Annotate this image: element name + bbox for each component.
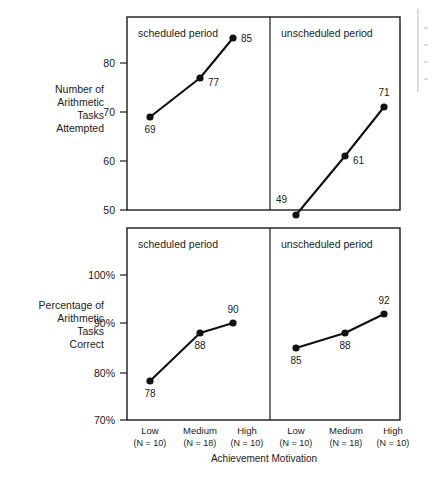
bottom-left-value-high: 90 xyxy=(227,304,239,315)
bottom-left-value-low: 78 xyxy=(144,388,156,399)
x-category-label-1: Low xyxy=(141,425,159,436)
bottom-right-value-high: 92 xyxy=(378,295,390,306)
top-right-datapoint-medium xyxy=(341,152,348,159)
x-category-label-5: Medium xyxy=(329,425,363,436)
bottom-right-datapoint-medium xyxy=(341,329,348,336)
bottom-left-panel-label: scheduled period xyxy=(138,238,218,250)
top-right-series: 49 61 71 xyxy=(276,87,390,219)
top-ylabel-line-1: Number of xyxy=(55,83,104,95)
bottom-ytick-label-70: 70% xyxy=(94,414,115,426)
x-axis-category-labels: Low (N = 10) Medium (N = 18) High (N = 1… xyxy=(134,425,410,448)
top-left-series-line xyxy=(150,38,233,117)
bottom-ytick-label-100: 100% xyxy=(88,269,115,281)
top-ytick-label-70: 70 xyxy=(103,106,115,118)
x-category-label-3: High xyxy=(237,425,257,436)
top-right-value-low: 49 xyxy=(276,194,288,205)
two-panel-line-chart: 80 70 60 50 Number of Arithmetic Tasks A… xyxy=(0,0,432,483)
top-ylabel-line-2: Arithmetic xyxy=(57,96,104,108)
x-category-label-4: Low xyxy=(287,425,305,436)
bottom-left-value-medium: 88 xyxy=(194,340,206,351)
top-left-value-medium: 77 xyxy=(208,77,220,88)
x-category-label-6: High xyxy=(383,425,403,436)
top-right-datapoint-high xyxy=(380,103,387,110)
top-ylabel-line-4: Attempted xyxy=(56,122,104,134)
top-left-datapoint-low xyxy=(146,113,153,120)
x-category-n-6: (N = 10) xyxy=(377,438,410,448)
top-left-datapoint-medium xyxy=(196,74,203,81)
bottom-left-datapoint-low xyxy=(146,377,153,384)
bottom-chart-y-axis-title: Percentage of Arithmetic Tasks Correct xyxy=(39,299,104,350)
top-right-panel-label: unscheduled period xyxy=(281,27,373,39)
bottom-right-value-low: 85 xyxy=(290,355,302,366)
x-category-n-5: (N = 18) xyxy=(330,438,363,448)
bottom-ylabel-line-4: Correct xyxy=(70,338,105,350)
top-left-value-high: 85 xyxy=(241,33,253,44)
bottom-ylabel-line-3: Tasks xyxy=(77,325,104,337)
bottom-right-datapoint-low xyxy=(292,344,299,351)
top-right-datapoint-low xyxy=(292,211,299,218)
bottom-chart-frame xyxy=(127,228,400,420)
x-category-n-2: (N = 18) xyxy=(184,438,217,448)
x-category-n-3: (N = 10) xyxy=(231,438,264,448)
top-right-value-high: 71 xyxy=(378,87,390,98)
top-chart-y-axis-title: Number of Arithmetic Tasks Attempted xyxy=(55,83,104,134)
bottom-right-datapoint-high xyxy=(380,310,387,317)
bottom-right-series: 85 88 92 xyxy=(290,295,390,366)
bottom-right-panel-label: unscheduled period xyxy=(281,238,373,250)
figure-container: 80 70 60 50 Number of Arithmetic Tasks A… xyxy=(0,0,432,483)
top-ytick-label-80: 80 xyxy=(103,57,115,69)
top-right-value-medium: 61 xyxy=(353,155,365,166)
x-category-n-1: (N = 10) xyxy=(134,438,167,448)
bottom-left-series: 78 88 90 xyxy=(144,304,239,399)
top-ytick-label-60: 60 xyxy=(103,155,115,167)
top-left-series: 69 77 85 xyxy=(144,33,252,135)
bottom-ytick-label-80: 80% xyxy=(94,367,115,379)
top-chart-y-axis: 80 70 60 50 xyxy=(103,57,127,216)
top-ylabel-line-3: Tasks xyxy=(77,109,104,121)
bottom-right-value-medium: 88 xyxy=(339,340,351,351)
x-axis-title: Achievement Motivation xyxy=(211,453,317,464)
bottom-left-datapoint-high xyxy=(229,319,236,326)
top-left-datapoint-high xyxy=(229,34,236,41)
top-left-value-low: 69 xyxy=(144,124,156,135)
page-edge-artifact xyxy=(418,9,428,92)
bottom-chart: 100% 90% 80% 70% Percentage of Arithmeti… xyxy=(39,228,400,426)
bottom-ylabel-line-1: Percentage of xyxy=(39,299,104,311)
bottom-left-datapoint-medium xyxy=(196,329,203,336)
top-chart: 80 70 60 50 Number of Arithmetic Tasks A… xyxy=(55,17,400,219)
top-chart-frame xyxy=(127,17,400,210)
top-left-panel-label: scheduled period xyxy=(138,27,218,39)
top-right-series-line xyxy=(296,107,384,215)
top-ytick-label-50: 50 xyxy=(103,204,115,216)
x-category-n-4: (N = 10) xyxy=(280,438,313,448)
bottom-left-series-line xyxy=(150,323,233,381)
x-category-label-2: Medium xyxy=(183,425,217,436)
bottom-ylabel-line-2: Arithmetic xyxy=(57,312,104,324)
